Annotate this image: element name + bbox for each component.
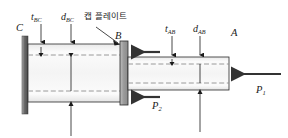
label-cap-plate: 캡 플레이트 [84, 12, 127, 21]
label-diameter-bc: dBC [61, 12, 74, 22]
cap-plate-rect [120, 41, 128, 105]
label-load-p2: P2 [152, 101, 162, 112]
cap-plate-shape [120, 41, 128, 105]
label-point-c: C [16, 23, 23, 34]
stepped-tube-diagram [0, 0, 288, 138]
fixed-wall-support [22, 36, 28, 114]
label-diameter-ab: dAB [193, 24, 206, 34]
tube-segment-ab [128, 57, 229, 90]
label-point-a: A [231, 28, 237, 39]
tube-ab-outline [128, 57, 229, 90]
label-thickness-bc: tBC [31, 12, 42, 22]
label-point-b: B [115, 31, 121, 42]
tube-segment-bc [28, 44, 121, 102]
label-thickness-ab: tAB [165, 24, 175, 34]
wall-bar [22, 36, 28, 114]
tube-bc-outline [28, 44, 121, 102]
label-load-p1: P1 [256, 85, 266, 96]
